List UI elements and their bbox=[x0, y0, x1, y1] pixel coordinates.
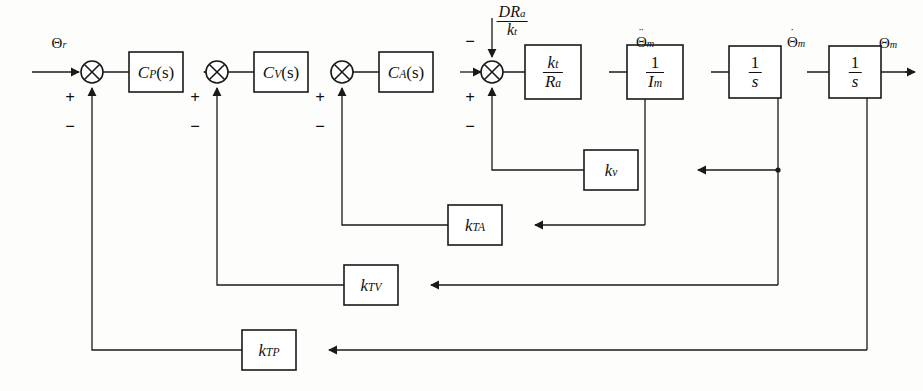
label-second-integrator: 1 s bbox=[849, 54, 862, 90]
summing-junction-position-error[interactable] bbox=[81, 61, 103, 83]
label-velocity-tach-gain: kTV bbox=[360, 277, 381, 294]
disturbance-denominator-k-sub: t bbox=[514, 25, 517, 37]
diagram-canvas bbox=[0, 0, 923, 391]
kta-subscript: TA bbox=[472, 221, 485, 234]
label-first-integrator: 1 s bbox=[749, 54, 762, 90]
sign-minus-j3: − bbox=[315, 118, 325, 135]
disturbance-numerator-r: R bbox=[510, 3, 520, 20]
disturbance-numerator-r-sub: a bbox=[520, 7, 525, 19]
label-acceleration-signal: ¨Θm bbox=[636, 35, 654, 50]
integrator2-numerator: 1 bbox=[851, 53, 860, 72]
sign-plus-j3: + bbox=[315, 89, 325, 106]
accel-symbol-wrap: ¨Θ bbox=[636, 35, 647, 50]
cp-argument: (s) bbox=[156, 63, 174, 82]
label-position-tach-gain: kTP bbox=[258, 342, 279, 359]
disturbance-numerator-d: D bbox=[499, 3, 511, 20]
label-velocity-signal: ˙Θm bbox=[787, 35, 805, 50]
kt-over-ra-fraction: kt Ra bbox=[543, 54, 563, 90]
ktp-subscript: TP bbox=[266, 346, 279, 359]
sign-minus-j1: − bbox=[65, 118, 75, 135]
vel-subscript: m bbox=[798, 38, 805, 49]
one-over-im-fraction: 1 Im bbox=[646, 54, 664, 90]
im-subscript: m bbox=[654, 77, 662, 90]
sign-plus-j2: + bbox=[190, 89, 200, 106]
vel-single-dot: ˙ bbox=[790, 27, 795, 40]
label-position-output: Θm bbox=[879, 36, 897, 51]
integrator2-denominator: s bbox=[852, 72, 859, 91]
kta-symbol: k bbox=[465, 216, 473, 235]
integrator1-numerator: 1 bbox=[751, 53, 760, 72]
ra-symbol: R bbox=[545, 72, 555, 91]
cv-symbol: C bbox=[263, 63, 274, 82]
accel-subscript: m bbox=[647, 38, 654, 49]
reference-input-subscript: r bbox=[62, 39, 66, 50]
ra-subscript: a bbox=[555, 77, 561, 90]
sign-plus-j1: + bbox=[65, 89, 75, 106]
label-acceleration-tach-gain: kTA bbox=[465, 217, 485, 234]
sign-minus-top-j4: − bbox=[465, 33, 475, 50]
block-diagram-figure: Θr + − + − + − + − − DRa kt CP(s) CV(s) … bbox=[0, 0, 923, 391]
ktv-symbol: k bbox=[360, 276, 368, 295]
label-velocity-feedback-gain: kv bbox=[605, 162, 618, 179]
inertia-numerator: 1 bbox=[651, 53, 660, 72]
wire-ktv-to-j2 bbox=[217, 88, 371, 285]
wire-ktp-to-j1 bbox=[92, 88, 269, 350]
cp-symbol: C bbox=[138, 63, 149, 82]
cv-argument: (s) bbox=[281, 63, 299, 82]
ktv-subscript: TV bbox=[368, 281, 381, 294]
sign-minus-j2: − bbox=[190, 118, 200, 135]
kv-subscript: v bbox=[612, 166, 617, 179]
pos-symbol: Θ bbox=[879, 35, 890, 51]
vel-symbol-wrap: ˙Θ bbox=[787, 35, 798, 50]
summing-junction-velocity-error[interactable] bbox=[206, 61, 228, 83]
label-velocity-controller: CV(s) bbox=[263, 64, 299, 81]
label-motor-torque-constant: kt Ra bbox=[543, 54, 563, 90]
kt-subscript: t bbox=[555, 58, 558, 71]
summing-junction-acceleration-error[interactable] bbox=[331, 61, 353, 83]
ca-argument: (s) bbox=[406, 63, 424, 82]
accel-double-dot: ¨ bbox=[639, 27, 644, 40]
one-over-s-fraction-2: 1 s bbox=[849, 54, 862, 90]
disturbance-fraction: DRa kt bbox=[497, 4, 528, 38]
label-disturbance-torque: DRa kt bbox=[497, 4, 528, 38]
one-over-s-fraction-1: 1 s bbox=[749, 54, 762, 90]
summing-junction-torque-disturbance[interactable] bbox=[481, 61, 503, 83]
ca-symbol: C bbox=[388, 63, 399, 82]
pos-subscript: m bbox=[890, 39, 897, 50]
junction-dot-velocity-kv bbox=[775, 167, 780, 172]
ktp-symbol: k bbox=[258, 341, 266, 360]
label-acceleration-controller: CA(s) bbox=[388, 64, 424, 81]
label-motor-inertia: 1 Im bbox=[646, 54, 664, 90]
kv-symbol: k bbox=[605, 161, 613, 180]
sign-plus-j4: + bbox=[465, 89, 475, 106]
label-reference-input: Θr bbox=[52, 36, 67, 51]
integrator1-denominator: s bbox=[752, 72, 759, 91]
sign-minus-bottom-j4: − bbox=[465, 118, 475, 135]
label-position-controller: CP(s) bbox=[138, 64, 174, 81]
reference-input-symbol: Θ bbox=[52, 35, 63, 51]
